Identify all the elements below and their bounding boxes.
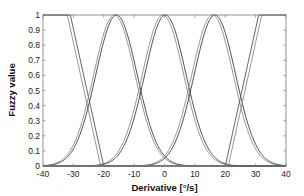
x-tick-label: 10 bbox=[190, 169, 200, 179]
x-tick-label: 0 bbox=[162, 169, 167, 179]
series-line-6 bbox=[43, 15, 286, 166]
y-tick-label: 0.8 bbox=[28, 40, 40, 50]
series-line-9 bbox=[43, 15, 286, 166]
x-tick-label: -30 bbox=[67, 169, 80, 179]
x-tick-labels: -40-30-20-10010203040 bbox=[37, 169, 291, 179]
membership-function-chart: -40-30-20-10010203040 00.10.20.30.40.50.… bbox=[0, 0, 304, 196]
x-tick-label: -20 bbox=[98, 169, 111, 179]
x-axis-label: Derivative [°/s] bbox=[131, 182, 197, 193]
y-tick-label: 0.3 bbox=[28, 116, 40, 126]
series-line-5 bbox=[43, 15, 286, 166]
x-tick-label: 30 bbox=[251, 169, 261, 179]
y-axis-label: Fuzzy value bbox=[6, 63, 17, 116]
y-tick-label: 0.6 bbox=[28, 70, 40, 80]
y-tick-label: 0.4 bbox=[28, 101, 40, 111]
series-line-8 bbox=[43, 15, 286, 166]
series-line-2 bbox=[43, 15, 286, 166]
axis-ticks bbox=[43, 15, 286, 166]
y-tick-label: 0.9 bbox=[28, 25, 40, 35]
series-line-7 bbox=[43, 15, 286, 166]
x-tick-label: 40 bbox=[281, 169, 291, 179]
plot-frame bbox=[43, 15, 286, 166]
series-line-4 bbox=[43, 15, 286, 166]
y-tick-label: 0 bbox=[35, 161, 40, 171]
x-tick-label: 20 bbox=[221, 169, 231, 179]
y-tick-label: 0.5 bbox=[28, 86, 40, 96]
y-tick-labels: 00.10.20.30.40.50.60.70.80.91 bbox=[28, 10, 40, 171]
series-line-3 bbox=[43, 15, 286, 166]
y-tick-label: 0.1 bbox=[28, 146, 40, 156]
x-tick-label: -10 bbox=[128, 169, 141, 179]
curves-group bbox=[43, 15, 286, 166]
y-tick-label: 0.2 bbox=[28, 131, 40, 141]
y-tick-label: 0.7 bbox=[28, 55, 40, 65]
series-line-1 bbox=[43, 15, 286, 166]
y-tick-label: 1 bbox=[35, 10, 40, 20]
series-line-0 bbox=[43, 15, 286, 166]
